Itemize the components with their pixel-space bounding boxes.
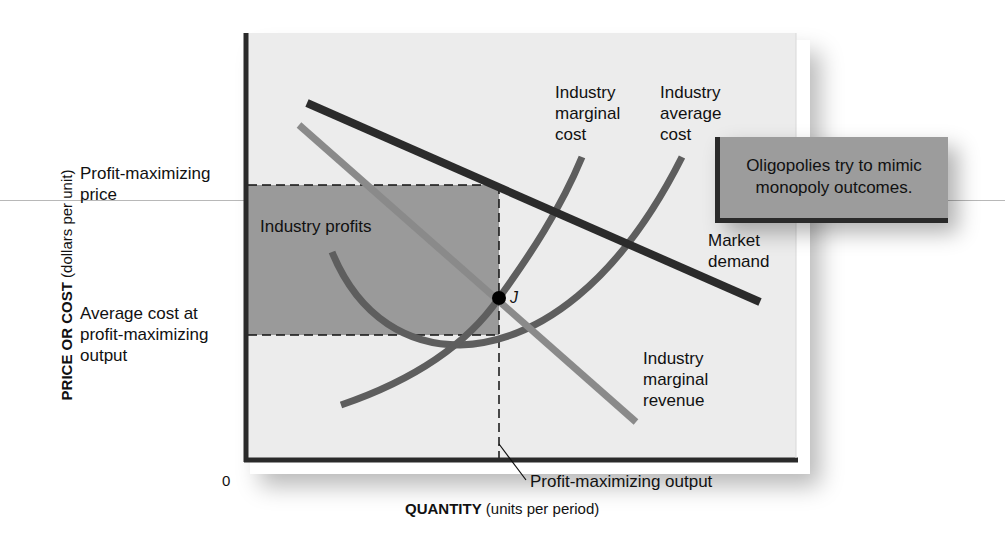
industry-profits-label: Industry profits — [260, 216, 372, 237]
marginal-cost-label: Industry marginal cost — [555, 82, 620, 145]
average-cost-label: Industry average cost — [660, 82, 721, 145]
origin-label: 0 — [222, 470, 230, 491]
marginal-revenue-label: Industry marginal revenue — [643, 348, 708, 411]
point-j-label: J — [510, 287, 518, 308]
chart-plot — [0, 0, 1005, 554]
point-j-marker — [492, 291, 506, 305]
y-tick-label-avg-cost: Average cost at profit-maximizing output — [80, 303, 208, 366]
market-demand-label: Market demand — [708, 230, 769, 272]
y-axis-label: PRICE OR COST (dollars per unit) — [58, 170, 75, 401]
x-axis-label: QUANTITY (units per period) — [405, 500, 599, 517]
y-tick-label-price: Profit-maximizing price — [80, 163, 210, 205]
x-tick-label-output: Profit-maximizing output — [530, 471, 712, 492]
annotation-callout: Oligopolies try to mimic monopoly outcom… — [715, 137, 948, 223]
